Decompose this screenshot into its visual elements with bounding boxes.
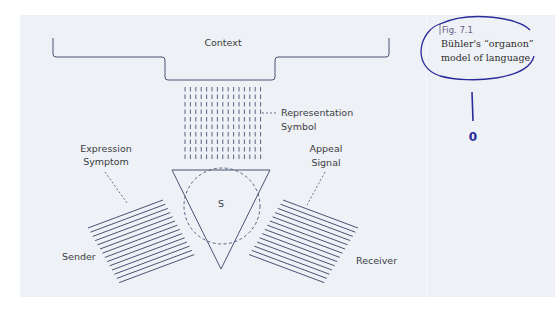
appeal-label: Appeal <box>310 143 343 154</box>
symptom-label: Symptom <box>83 156 129 167</box>
signal-label: Signal <box>311 157 340 168</box>
expression-label: Expression <box>80 143 132 154</box>
symbol-label: Symbol <box>281 121 316 132</box>
sign-label: S <box>218 198 224 209</box>
handwritten-stroke <box>472 92 473 121</box>
sender-label: Sender <box>62 251 96 262</box>
receiver-label: Receiver <box>356 255 397 266</box>
representation-label: Representation <box>281 107 353 118</box>
receiver-hatching <box>249 200 358 283</box>
sender-hatching <box>88 200 194 283</box>
handwritten-mark: 0 <box>469 130 477 144</box>
caption-line-1: Bühler's “organon” <box>441 38 534 49</box>
figure-number: Fig. 7.1 <box>442 25 473 35</box>
representation-dash-grid <box>185 87 261 159</box>
expression-leader <box>105 172 127 203</box>
caption-line-2: model of language <box>441 52 531 63</box>
appeal-leader <box>307 172 325 205</box>
organon-model-diagram: Context Representation Symbol S Expressi… <box>0 0 555 313</box>
context-label: Context <box>204 37 241 48</box>
